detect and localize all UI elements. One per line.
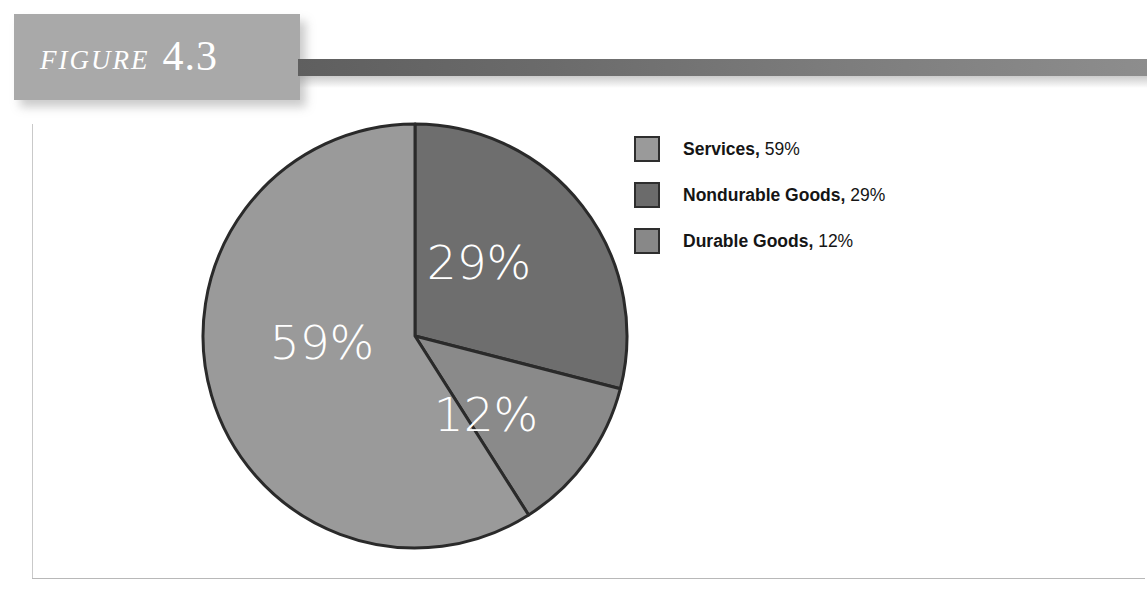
frame-left-border [32, 124, 33, 579]
legend-name-durable-goods: Durable Goods, [683, 231, 813, 251]
chart-legend: Services, 59% Nondurable Goods, 29% Dura… [634, 126, 1054, 264]
pie-chart: 29% 12% 59% [198, 119, 632, 553]
legend-item-services[interactable]: Services, 59% [634, 126, 1054, 172]
legend-name-nondurable-goods: Nondurable Goods, [683, 185, 845, 205]
pie-label-services: 59% [270, 315, 374, 370]
frame-bottom-border [32, 578, 1145, 579]
legend-swatch-durable-goods-icon [634, 228, 660, 254]
figure-number: 4.3 [162, 35, 218, 77]
legend-label-nondurable-goods: Nondurable Goods, 29% [683, 185, 885, 206]
legend-item-nondurable-goods[interactable]: Nondurable Goods, 29% [634, 172, 1054, 218]
figure-label: FIGURE [40, 47, 149, 74]
banner-tail-bar [298, 59, 1147, 76]
legend-name-services: Services, [683, 139, 760, 159]
legend-value-nondurable-goods: 29% [845, 185, 885, 205]
legend-value-durable-goods: 12% [813, 231, 853, 251]
banner-tail-shadow [300, 76, 1147, 88]
pie-slices [203, 124, 627, 548]
figure-banner: FIGURE 4.3 [14, 14, 300, 100]
legend-label-durable-goods: Durable Goods, 12% [683, 231, 853, 252]
legend-item-durable-goods[interactable]: Durable Goods, 12% [634, 218, 1054, 264]
legend-swatch-nondurable-goods-icon [634, 182, 660, 208]
legend-label-services: Services, 59% [683, 139, 800, 160]
legend-swatch-services-icon [634, 136, 660, 162]
pie-label-durable-goods: 12% [434, 387, 538, 442]
pie-label-nondurable-goods: 29% [427, 235, 531, 290]
legend-value-services: 59% [760, 139, 800, 159]
